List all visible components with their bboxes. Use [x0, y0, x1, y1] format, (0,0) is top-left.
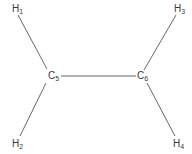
- bond-h2-c5: [20, 83, 46, 136]
- atom-h4: H4: [173, 139, 184, 149]
- atom-h2: H2: [12, 139, 23, 149]
- atom-h2-index: 2: [19, 143, 23, 150]
- atom-h1-index: 1: [19, 8, 23, 15]
- bond-c6-h3: [144, 15, 176, 70]
- atom-h3-index: 3: [181, 8, 185, 15]
- bond-c6-h4: [147, 83, 175, 136]
- bond-h1-c5: [18, 15, 47, 69]
- atom-c5: C5: [48, 71, 59, 81]
- atom-h4-index: 4: [180, 143, 184, 150]
- atom-c6-index: 6: [144, 75, 148, 82]
- atom-c6: C6: [137, 71, 148, 81]
- atom-c5-index: 5: [55, 75, 59, 82]
- atom-h3: H3: [174, 4, 185, 14]
- bond-lines: [0, 0, 192, 154]
- atom-h1: H1: [12, 4, 23, 14]
